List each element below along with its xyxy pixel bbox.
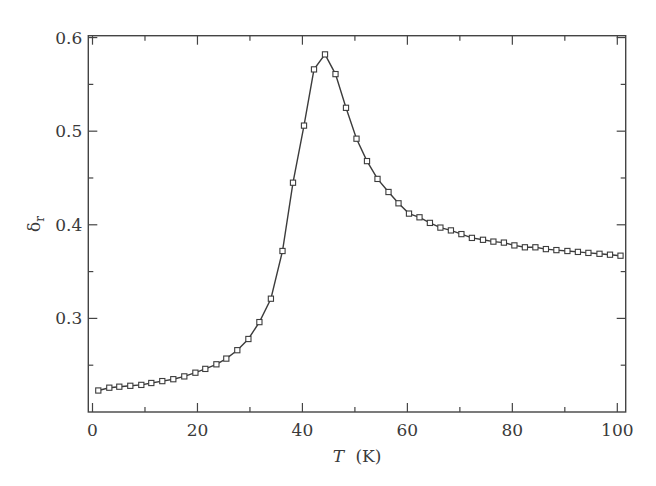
chart: 020406080100 0.30.40.50.6 T (K) δr (0, 0, 656, 486)
data-point (280, 248, 285, 253)
data-point (343, 105, 348, 110)
x-axis-title-unit: (K) (355, 446, 381, 466)
data-point (182, 374, 187, 379)
data-point (554, 248, 559, 253)
data-point (268, 296, 273, 301)
data-point (311, 67, 316, 72)
y-tick-label: 0.6 (55, 28, 82, 48)
data-point (586, 250, 591, 255)
data-point (417, 215, 422, 220)
x-tick-label: 60 (397, 420, 419, 440)
data-point (491, 239, 496, 244)
x-tick-label: 0 (87, 420, 98, 440)
data-point (501, 240, 506, 245)
data-point (354, 136, 359, 141)
data-point (575, 249, 580, 254)
data-point (290, 180, 295, 185)
data-point (171, 377, 176, 382)
data-point (448, 228, 453, 233)
data-point (480, 237, 485, 242)
data-point (396, 201, 401, 206)
data-point (96, 388, 101, 393)
axis-ticks (88, 36, 625, 412)
data-point (128, 383, 133, 388)
y-tick-labels: 0.30.40.50.6 (55, 28, 82, 329)
data-point (333, 72, 338, 77)
x-tick-label: 80 (502, 420, 524, 440)
data-point (597, 251, 602, 256)
data-point (149, 380, 154, 385)
data-point (522, 245, 527, 250)
data-point (246, 336, 251, 341)
y-axis-title-symbol: δ (24, 222, 44, 232)
data-point (139, 382, 144, 387)
x-tick-labels: 020406080100 (87, 420, 633, 440)
data-point (459, 232, 464, 237)
data-point (438, 225, 443, 230)
data-point (512, 243, 517, 248)
data-point (235, 348, 240, 353)
x-tick-label: 40 (292, 420, 314, 440)
data-point (224, 356, 229, 361)
y-tick-label: 0.4 (55, 215, 82, 235)
data-point (214, 362, 219, 367)
y-tick-label: 0.3 (55, 308, 82, 328)
data-point (543, 247, 548, 252)
series-line (98, 54, 620, 390)
data-point (193, 370, 198, 375)
data-point (301, 123, 306, 128)
data-point (257, 320, 262, 325)
x-tick-label: 20 (187, 420, 209, 440)
data-point (203, 366, 208, 371)
data-point (375, 176, 380, 181)
data-point (364, 159, 369, 164)
data-point (386, 189, 391, 194)
data-point (565, 248, 570, 253)
plot-frame (88, 36, 625, 412)
data-point (427, 220, 432, 225)
series-markers (96, 52, 623, 393)
y-axis-title: δr (24, 216, 47, 232)
data-point (469, 235, 474, 240)
x-axis-title: T (K) (333, 446, 382, 466)
data-point (117, 384, 122, 389)
data-point (107, 385, 112, 390)
data-point (322, 52, 327, 57)
data-point (533, 245, 538, 250)
data-point (607, 252, 612, 257)
data-point (406, 211, 411, 216)
data-point (618, 253, 623, 258)
y-axis-title-subscript: r (33, 216, 47, 222)
data-point (160, 379, 165, 384)
y-tick-label: 0.5 (55, 121, 82, 141)
x-axis-title-var: T (333, 446, 346, 466)
x-tick-label: 100 (601, 420, 633, 440)
